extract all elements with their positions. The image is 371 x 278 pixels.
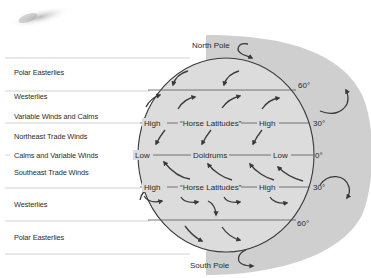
band-label-calms-variable-winds: Calms and Variable Winds xyxy=(14,151,98,160)
south-30-right-high: High xyxy=(259,183,275,192)
north-horse-latitudes: “Horse Latitudes” xyxy=(180,119,242,128)
lat-30-north-label: 30° xyxy=(313,119,325,128)
band-label-southeast-trades: Southeast Trade Winds xyxy=(14,168,89,177)
band-label-westerlies-south: Westerlies xyxy=(14,200,47,209)
lat-60-north-label: 60° xyxy=(298,81,310,90)
band-label-polar-easterlies-south: Polar Easterlies xyxy=(14,233,64,242)
south-pole-label: South Pole xyxy=(190,261,230,270)
equator-left-low: Low xyxy=(135,151,150,160)
lat-0-label: 0° xyxy=(315,151,323,160)
doldrums-label: Doldrums xyxy=(193,151,227,160)
band-label-northeast-trades: Northeast Trade Winds xyxy=(14,132,87,141)
band-label-polar-easterlies-north: Polar Easterlies xyxy=(14,68,64,77)
equator-right-low: Low xyxy=(273,151,288,160)
north-pole-label: North Pole xyxy=(192,41,230,50)
wind-belts-diagram: North Pole South Pole 60° 30° 0° 30° 60°… xyxy=(0,0,371,278)
south-30-left-high: High xyxy=(144,183,160,192)
lat-30-south-label: 30° xyxy=(313,183,325,192)
south-horse-latitudes: “Horse Latitudes” xyxy=(180,183,242,192)
band-label-variable-winds-calms: Variable Winds and Calms xyxy=(14,112,98,121)
lat-60-south-label: 60° xyxy=(297,219,309,228)
north-30-left-high: High xyxy=(144,119,160,128)
band-label-westerlies-north: Westerlies xyxy=(14,92,47,101)
north-30-right-high: High xyxy=(259,119,275,128)
paper-smudge xyxy=(7,1,73,32)
